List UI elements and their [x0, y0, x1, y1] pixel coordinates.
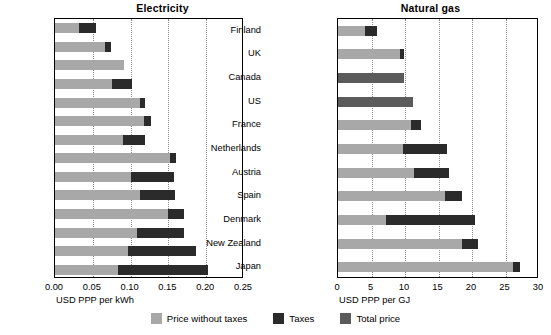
- x-axis-title-natural-gas: USD PPP per GJ: [339, 295, 410, 305]
- bar-row: [338, 137, 537, 161]
- legend-label: Total price: [356, 313, 400, 324]
- bar-segment-price-without-taxes: [55, 246, 128, 256]
- bar-segment-price-without-taxes: [55, 98, 140, 108]
- bar-segment-price-without-taxes: [338, 215, 386, 225]
- bar-row: [338, 19, 537, 43]
- bar-segment-total-price: [338, 97, 413, 107]
- chart-legend: Price without taxesTaxesTotal price: [0, 313, 551, 324]
- x-tick-label: 5: [368, 282, 373, 292]
- category-label: Netherlands: [141, 143, 261, 153]
- x-tick-label: 0.00: [45, 282, 63, 292]
- legend-label: Price without taxes: [167, 313, 248, 324]
- panel-title-natural-gas: Natural gas: [275, 2, 551, 14]
- bar-segment-price-without-taxes: [55, 135, 123, 145]
- bar-row: [338, 208, 537, 232]
- bar-segment-price-without-taxes: [55, 265, 118, 275]
- bar-segment-taxes: [170, 153, 176, 163]
- legend-swatch-total: [340, 313, 351, 324]
- chart-figure: Electricity NorwayCanadaUS*FinlandUKNew …: [0, 0, 551, 335]
- bar-row: [338, 184, 537, 208]
- bar-segment-price-without-taxes: [338, 168, 414, 178]
- category-label: US: [141, 96, 261, 106]
- bar-segment-total-price: [338, 73, 404, 83]
- bar-segment-price-without-taxes: [338, 191, 445, 201]
- x-tick-label: 15: [432, 282, 442, 292]
- legend-label: Taxes: [289, 313, 314, 324]
- bar-segment-taxes: [386, 215, 475, 225]
- bar-segment-price-without-taxes: [55, 190, 140, 200]
- x-axis-title-electricity: USD PPP per kWh: [56, 295, 134, 305]
- x-tick-label: 10: [399, 282, 409, 292]
- category-label: New Zealand: [141, 238, 261, 248]
- bar-row: [338, 43, 537, 67]
- x-tick-label: 25: [499, 282, 509, 292]
- x-tick-label: 0.05: [83, 282, 101, 292]
- legend-item: Taxes: [273, 313, 314, 324]
- bar-segment-taxes: [400, 49, 403, 59]
- bars-natural-gas: [338, 19, 537, 277]
- x-tick-label: 0.25: [234, 282, 252, 292]
- bar-segment-taxes: [112, 79, 132, 89]
- legend-item: Total price: [340, 313, 400, 324]
- bar-row: [338, 66, 537, 90]
- category-label: UK: [141, 48, 261, 58]
- legend-swatch-light: [151, 313, 162, 324]
- x-tick-label: 0.20: [196, 282, 214, 292]
- bar-segment-price-without-taxes: [338, 144, 403, 154]
- bar-segment-price-without-taxes: [55, 228, 137, 238]
- legend-item: Price without taxes: [151, 313, 248, 324]
- bar-segment-taxes: [79, 23, 96, 33]
- x-tick-label: 20: [466, 282, 476, 292]
- x-tick-label: 0.10: [121, 282, 139, 292]
- bar-row: [338, 232, 537, 256]
- bar-segment-price-without-taxes: [338, 49, 400, 59]
- bar-segment-taxes: [403, 144, 447, 154]
- legend-swatch-dark: [273, 313, 284, 324]
- panel-natural-gas: Natural gas FinlandUKCanadaUSFranceNethe…: [275, 0, 551, 300]
- bar-segment-price-without-taxes: [55, 79, 112, 89]
- bar-segment-price-without-taxes: [338, 262, 513, 272]
- bar-segment-taxes: [462, 239, 478, 249]
- bar-segment-taxes: [445, 191, 462, 201]
- x-tick-label: 30: [533, 282, 543, 292]
- bar-segment-taxes: [137, 228, 185, 238]
- category-label: Canada: [141, 72, 261, 82]
- bar-segment-taxes: [513, 262, 520, 272]
- bar-segment-price-without-taxes: [55, 116, 144, 126]
- bar-segment-price-without-taxes: [338, 239, 462, 249]
- category-label: France: [141, 119, 261, 129]
- category-label: Japan: [141, 261, 261, 271]
- bar-segment-taxes: [411, 120, 421, 130]
- bar-segment-price-without-taxes: [55, 42, 105, 52]
- bar-segment-price-without-taxes: [55, 153, 170, 163]
- bar-segment-price-without-taxes: [338, 120, 411, 130]
- bar-segment-price-without-taxes: [55, 60, 124, 70]
- x-tick-label: 0.15: [158, 282, 176, 292]
- bar-row: [338, 255, 537, 279]
- bar-row: [338, 114, 537, 138]
- plot-area-natural-gas: [337, 18, 538, 278]
- category-label: Spain: [141, 190, 261, 200]
- category-label: Austria: [141, 167, 261, 177]
- category-label: Denmark: [141, 214, 261, 224]
- bar-segment-price-without-taxes: [55, 23, 79, 33]
- bar-segment-taxes: [414, 168, 448, 178]
- category-label: Finland: [141, 25, 261, 35]
- bar-segment-price-without-taxes: [338, 26, 365, 36]
- panel-title-electricity: Electricity: [0, 2, 275, 14]
- bar-row: [338, 161, 537, 185]
- bar-row: [338, 90, 537, 114]
- x-tick-label: 0: [334, 282, 339, 292]
- bar-segment-taxes: [365, 26, 377, 36]
- bar-segment-taxes: [128, 246, 196, 256]
- bar-segment-taxes: [105, 42, 111, 52]
- bar-segment-price-without-taxes: [55, 172, 131, 182]
